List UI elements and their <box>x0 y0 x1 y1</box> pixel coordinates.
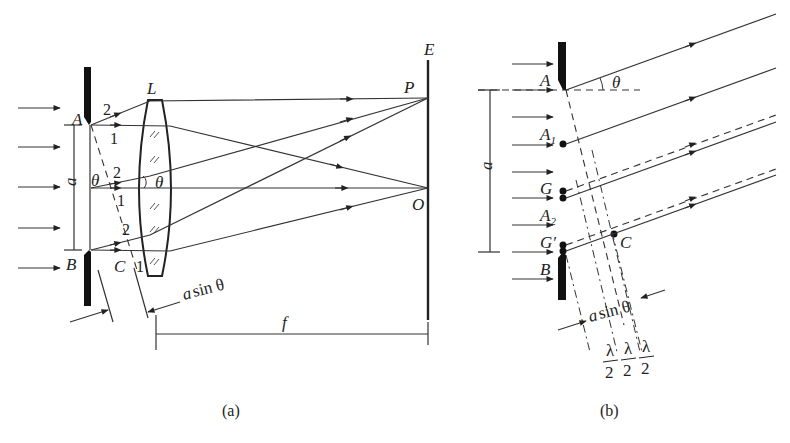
svg-text:λ: λ <box>606 341 615 360</box>
diffracted-rays <box>566 14 776 251</box>
svg-text:2: 2 <box>122 221 130 238</box>
svg-text:2: 2 <box>605 363 614 382</box>
label-edge-b-b: B <box>540 260 551 279</box>
label-point-o: O <box>412 195 424 214</box>
caption-b: (b) <box>600 402 619 420</box>
label-edge-a: A <box>71 110 83 129</box>
label-angle-theta-b: θ <box>612 73 620 92</box>
label-lens: L <box>146 79 156 98</box>
incident-light-arrows <box>18 108 60 268</box>
figure-b: θ a A A1 G A2 G′ B C <box>477 14 776 420</box>
width-dimension-b: a <box>477 90 500 252</box>
svg-text:2: 2 <box>113 164 121 181</box>
svg-text:λ: λ <box>642 337 651 356</box>
width-dimension: A B a <box>61 110 83 274</box>
label-edge-a-b: A <box>539 71 551 90</box>
svg-text:1: 1 <box>136 258 144 275</box>
label-point-c-b: C <box>620 233 632 252</box>
label-a2: A2 <box>539 206 556 227</box>
label-edge-b: B <box>66 255 77 274</box>
label-point-p: P <box>403 78 414 97</box>
svg-text:2: 2 <box>103 101 111 118</box>
label-g: G <box>540 179 552 198</box>
half-wavelength-labels: λ 2 λ 2 λ 2 <box>603 337 654 382</box>
label-screen: E <box>423 40 435 59</box>
svg-text:1: 1 <box>117 192 125 209</box>
svg-text:λ: λ <box>624 339 633 358</box>
label-angle-theta-2: θ <box>155 173 163 192</box>
label-a1: A1 <box>539 125 556 146</box>
slit-barrier <box>84 67 91 306</box>
label-width-a: a <box>61 178 80 187</box>
label-g-prime: G′ <box>540 233 556 252</box>
slit-top-b <box>558 42 566 90</box>
svg-text:2: 2 <box>641 359 650 378</box>
svg-text:2: 2 <box>623 361 632 380</box>
label-asin-b-rest: sin θ <box>596 297 632 323</box>
diffraction-diagram: A B a L E P O <box>0 0 790 443</box>
label-angle-theta-1: θ <box>91 171 99 190</box>
figure-a: A B a L E P O <box>18 40 435 420</box>
label-width-b: a <box>477 162 496 171</box>
svg-text:1: 1 <box>110 130 118 147</box>
focal-length-dimension: f <box>156 313 428 350</box>
label-point-c: C <box>114 257 126 276</box>
caption-a: (a) <box>222 402 240 420</box>
label-asin-rest: sin θ <box>190 275 226 301</box>
path-difference-dimension-b: a sin θ <box>558 290 665 330</box>
screen-e: E P O <box>403 40 435 320</box>
label-focal-f: f <box>282 313 289 332</box>
slit-bottom-b <box>558 252 566 300</box>
